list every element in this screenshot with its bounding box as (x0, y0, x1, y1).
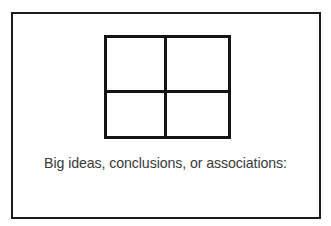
big-ideas-prompt: Big ideas, conclusions, or associations: (0, 155, 331, 171)
grid-vertical-divider (164, 35, 167, 139)
four-square-grid (104, 35, 231, 139)
grid-horizontal-divider (104, 90, 231, 93)
